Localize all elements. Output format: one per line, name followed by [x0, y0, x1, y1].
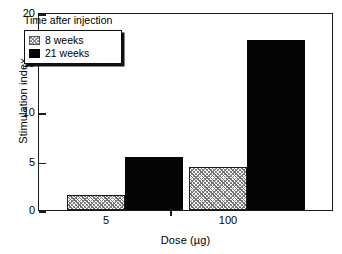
hatched-swatch-icon: [29, 36, 40, 45]
bar-chart-figure: Stimulation index 20 15 10 5 0: [0, 0, 342, 254]
x-tick-label-5: 5: [66, 214, 146, 226]
legend: Time after injection 8 weeks 21 weeks: [24, 14, 152, 64]
bar-8weeks-dose100: [189, 167, 247, 210]
legend-box: 8 weeks 21 weeks: [24, 30, 122, 64]
y-tick-5: 5: [15, 163, 39, 164]
solid-swatch-icon: [29, 49, 40, 58]
bar-21weeks-dose100: [247, 40, 305, 210]
y-tick-10: 10: [15, 113, 39, 114]
bar-8weeks-dose5: [67, 195, 125, 210]
legend-item-21-weeks: 21 weeks: [29, 47, 116, 60]
y-tick-mark: [39, 211, 46, 213]
y-tick-label: 5: [29, 155, 35, 169]
x-axis-title: Dose (µg): [38, 234, 333, 246]
x-tick-label-100: 100: [188, 214, 268, 226]
y-tick-label: 10: [23, 105, 35, 119]
x-tick-separator: [170, 210, 172, 216]
legend-label: 21 weeks: [45, 47, 89, 60]
y-tick-0: 0: [15, 211, 39, 212]
y-tick-mark: [39, 113, 46, 115]
legend-label: 8 weeks: [45, 34, 84, 47]
y-tick-label: 0: [29, 203, 35, 217]
y-tick-mark: [39, 163, 46, 165]
bar-21weeks-dose5: [125, 157, 183, 211]
legend-item-8-weeks: 8 weeks: [29, 34, 116, 47]
legend-title: Time after injection: [24, 14, 152, 26]
